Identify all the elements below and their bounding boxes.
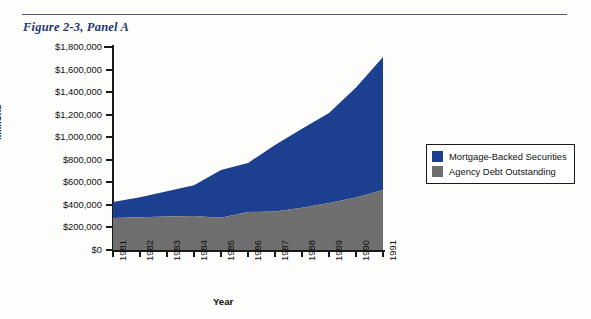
x-axis-tick-label: 1987 (279, 240, 290, 261)
y-axis-tick (106, 226, 113, 228)
x-axis-tick (112, 250, 114, 257)
legend-item-agency-debt-outstanding: Agency Debt Outstanding (432, 164, 567, 179)
x-axis-tick-label: 1988 (306, 240, 317, 261)
y-axis-tick (106, 181, 113, 183)
x-axis-tick-label: 1990 (360, 240, 371, 261)
y-axis-tick-label: $1,800,000 (28, 41, 102, 52)
x-axis-tick (355, 250, 357, 257)
legend-swatch-agency-debt-outstanding (432, 166, 443, 177)
figure-title: Figure 2-3, Panel A (23, 20, 129, 35)
x-axis-tick (301, 250, 303, 257)
legend-label-mortgage-backed-securities: Mortgage-Backed Securities (449, 151, 567, 162)
y-axis-tick-label: $200,000 (28, 221, 102, 232)
x-axis-tick-label: 1981 (117, 240, 128, 261)
y-axis-tick-label: $1,000,000 (28, 131, 102, 142)
y-axis-tick (106, 159, 113, 161)
x-axis-tick (328, 250, 330, 257)
x-axis-tick (139, 250, 141, 257)
y-axis-title: Millions (0, 104, 3, 140)
x-axis-tick-label: 1991 (387, 240, 398, 261)
figure-container: Figure 2-3, Panel A $0$200,000$400,000$6… (0, 0, 591, 319)
area-series-mortgage-backed-securities (113, 57, 383, 218)
y-axis-tick (106, 114, 113, 116)
y-axis-tick (106, 204, 113, 206)
header-divider (22, 14, 567, 15)
x-axis-tick (247, 250, 249, 257)
x-axis-tick-label: 1985 (225, 240, 236, 261)
chart-legend: Mortgage-Backed Securities Agency Debt O… (426, 144, 575, 184)
y-axis-tick (106, 136, 113, 138)
x-axis-tick (193, 250, 195, 257)
legend-item-mortgage-backed-securities: Mortgage-Backed Securities (432, 149, 567, 164)
y-axis-tick-label: $1,400,000 (28, 86, 102, 97)
x-axis-title: Year (213, 296, 233, 307)
y-axis-tick-label: $600,000 (28, 176, 102, 187)
x-axis-tick-label: 1983 (171, 240, 182, 261)
y-axis-tick-label: $400,000 (28, 199, 102, 210)
y-axis-tick (106, 69, 113, 71)
x-axis-tick-label: 1982 (144, 240, 155, 261)
y-axis-tick-label: $0 (28, 244, 102, 255)
y-axis-tick-label: $800,000 (28, 154, 102, 165)
x-axis-tick-label: 1989 (333, 240, 344, 261)
x-axis-tick (274, 250, 276, 257)
x-axis-tick (166, 250, 168, 257)
x-axis-tick (220, 250, 222, 257)
y-axis-tick-label: $1,200,000 (28, 109, 102, 120)
y-axis-tick (106, 91, 113, 93)
x-axis-tick-label: 1984 (198, 240, 209, 261)
x-axis-tick (382, 250, 384, 257)
legend-label-agency-debt-outstanding: Agency Debt Outstanding (449, 166, 556, 177)
plot-area (113, 47, 383, 250)
stacked-area-chart (113, 47, 383, 250)
y-axis-tick-label: $1,600,000 (28, 64, 102, 75)
x-axis-tick-label: 1986 (252, 240, 263, 261)
legend-swatch-mortgage-backed-securities (432, 151, 443, 162)
